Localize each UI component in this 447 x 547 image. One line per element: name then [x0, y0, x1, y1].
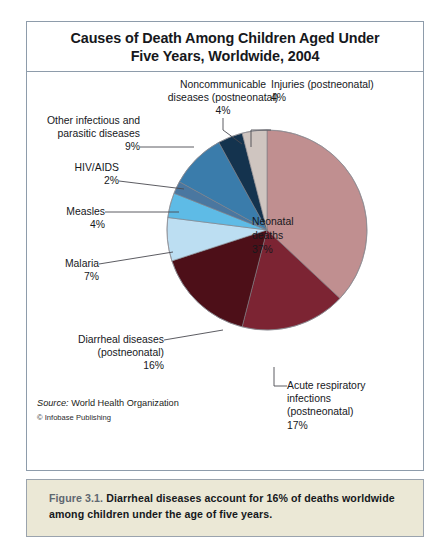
slice-label-malaria: Malaria 7%	[27, 257, 99, 283]
figure-title: Causes of Death Among Children Aged Unde…	[27, 22, 423, 72]
source-note: Source: World Health Organization	[37, 397, 179, 410]
chart-area: Neonatal deaths 37%	[27, 72, 423, 470]
slice-label-acute-respiratory: Acute respiratory infections (postneonat…	[287, 379, 417, 432]
figure-title-line-1: Causes of Death Among Children Aged Unde…	[70, 29, 379, 47]
figure-caption-text: Figure 3.1. Diarrheal diseases account f…	[49, 491, 407, 522]
slice-label-neonatal-deaths: Neonatal deaths 37%	[252, 215, 294, 257]
source-label: Source:	[37, 398, 69, 408]
leader-diarrheal	[164, 330, 223, 340]
leader-acute-respiratory	[274, 367, 287, 386]
leader-malaria	[99, 252, 173, 264]
slice-label-measles: Measles 4%	[27, 205, 105, 231]
figure-panel: Causes of Death Among Children Aged Unde…	[26, 21, 424, 471]
figure-caption: Figure 3.1. Diarrheal diseases account f…	[26, 479, 424, 537]
figure-caption-number: Figure 3.1.	[49, 492, 103, 504]
figure-title-line-2: Five Years, Worldwide, 2004	[131, 47, 320, 65]
slice-label-other-infectious: Other infectious and parasitic diseases …	[27, 114, 140, 154]
slice-label-diarrheal: Diarrheal diseases (postneonatal) 16%	[41, 333, 164, 373]
copyright-note: © Infobase Publishing	[37, 412, 111, 423]
source-value: World Health Organization	[69, 398, 179, 408]
slice-label-injuries: Injuries (postneonatal) 4%	[271, 78, 421, 104]
slice-label-hiv-aids: HIV/AIDS 2%	[27, 161, 119, 187]
figure-root: Causes of Death Among Children Aged Unde…	[0, 0, 447, 547]
